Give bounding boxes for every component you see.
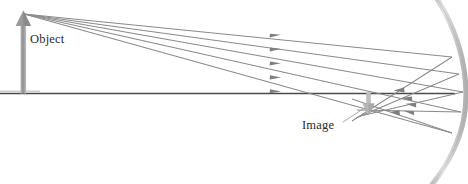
incident-ray — [24, 14, 459, 74]
incident-ray — [24, 14, 452, 57]
object-label: Object — [30, 32, 65, 47]
image-label: Image — [302, 118, 334, 133]
image-arrow — [362, 93, 374, 116]
incident-ray — [24, 14, 463, 92]
figure-canvas: Object Image — [0, 0, 468, 184]
optical-axis — [0, 91, 455, 93]
incident-ray — [24, 14, 452, 133]
ray-diagram-svg — [0, 0, 468, 184]
incident-ray — [24, 14, 461, 112]
object-arrow — [16, 11, 31, 94]
incident-rays — [24, 14, 463, 133]
